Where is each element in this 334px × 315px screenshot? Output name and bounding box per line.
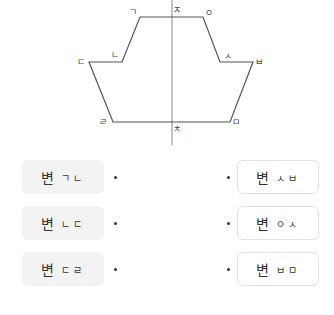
vertex-label-s: ㅅ — [224, 52, 232, 61]
side-word: 변 — [256, 213, 270, 233]
vertex-label-n: ㄴ — [111, 51, 119, 60]
vertex-label-r: ㄹ — [99, 118, 107, 127]
vertex-label-d: ㄷ — [77, 58, 85, 67]
vertex-label-g: ㄱ — [129, 8, 137, 17]
right-item-side-os[interactable]: 변 ㅇㅅ — [237, 206, 319, 240]
right-connector-dot-2[interactable] — [227, 222, 230, 225]
right-connector-dot-3[interactable] — [227, 268, 230, 271]
side-jamo: ㄷㄹ — [61, 262, 85, 277]
vertex-label-o: ㅇ — [205, 9, 213, 18]
vertex-label-ch: ㅊ — [173, 125, 181, 134]
figure-svg — [0, 0, 334, 150]
left-item-side-dr[interactable]: 변 ㄷㄹ — [22, 252, 104, 286]
vertex-label-b: ㅂ — [255, 58, 263, 67]
side-jamo: ㅅㅂ — [276, 170, 300, 185]
octagon-outline — [89, 17, 253, 122]
left-connector-dot-3[interactable] — [114, 268, 117, 271]
side-word: 변 — [41, 259, 55, 279]
side-word: 변 — [256, 259, 270, 279]
left-connector-dot-1[interactable] — [114, 176, 117, 179]
left-item-side-gn[interactable]: 변 ㄱㄴ — [22, 160, 104, 194]
right-item-side-bm[interactable]: 변 ㅂㅁ — [237, 252, 319, 286]
side-jamo: ㄱㄴ — [61, 170, 85, 185]
side-jamo: ㅇㅅ — [276, 216, 300, 231]
symmetric-figure-diagram: ㄱ ㅈ ㅇ ㄴ ㄷ ㅅ ㅂ ㄹ ㅁ ㅊ — [0, 0, 334, 150]
side-word: 변 — [256, 167, 270, 187]
left-item-side-nd[interactable]: 변 ㄴㄷ — [22, 206, 104, 240]
side-jamo: ㄴㄷ — [61, 216, 85, 231]
left-connector-dot-2[interactable] — [114, 222, 117, 225]
vertex-label-j: ㅈ — [173, 6, 181, 15]
vertex-label-m: ㅁ — [232, 118, 240, 127]
right-connector-dot-1[interactable] — [227, 176, 230, 179]
right-item-side-sb[interactable]: 변 ㅅㅂ — [237, 160, 319, 194]
side-word: 변 — [41, 213, 55, 233]
side-word: 변 — [41, 167, 55, 187]
side-jamo: ㅂㅁ — [276, 262, 300, 277]
